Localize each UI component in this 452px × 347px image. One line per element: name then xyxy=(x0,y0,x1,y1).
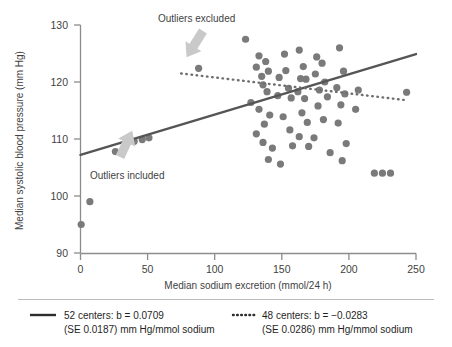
data-point xyxy=(259,81,266,88)
data-point xyxy=(314,102,321,109)
data-point xyxy=(289,142,296,149)
data-point xyxy=(337,101,344,108)
x-tick-label: 200 xyxy=(340,263,358,275)
data-point xyxy=(266,111,273,118)
x-tick-label: 50 xyxy=(142,263,154,275)
data-point xyxy=(333,84,340,91)
x-tick-label: 0 xyxy=(78,263,84,275)
x-axis-tick-labels: 050100150200250 xyxy=(78,263,425,275)
data-point xyxy=(352,106,359,113)
data-point xyxy=(310,134,317,141)
x-tick-label: 150 xyxy=(273,263,291,275)
x-tick-label: 100 xyxy=(206,263,224,275)
scatter-points xyxy=(78,36,411,228)
data-point xyxy=(277,160,284,167)
data-point xyxy=(281,50,288,57)
legend-label-48-centers-line2: (SE 0.0286) mm Hg/mmol sodium xyxy=(262,324,413,335)
y-tick-label: 120 xyxy=(50,76,68,88)
y-axis-ticks xyxy=(74,25,81,253)
data-point xyxy=(255,106,262,113)
data-point xyxy=(301,95,308,102)
data-point xyxy=(340,68,347,75)
data-point xyxy=(320,116,327,123)
data-point xyxy=(355,86,362,93)
annotation-label-outliers-excluded: Outliers excluded xyxy=(158,13,235,24)
chart-canvas: 90100110120130 Median systolic blood pre… xyxy=(0,0,452,347)
legend-label-52-centers-line1: 52 centers: b = 0.0709 xyxy=(64,310,164,321)
y-axis-title: Median systolic blood pressure (mm Hg) xyxy=(14,51,25,230)
data-point xyxy=(387,170,394,177)
y-tick-label: 90 xyxy=(56,247,68,259)
y-tick-label: 100 xyxy=(50,190,68,202)
data-point xyxy=(336,44,343,51)
y-tick-label: 130 xyxy=(50,19,68,31)
data-point xyxy=(263,88,270,95)
data-point xyxy=(305,143,312,150)
data-point xyxy=(298,109,305,116)
y-axis-tick-labels: 90100110120130 xyxy=(50,19,68,259)
legend-entry-48-centers: 48 centers: b = −0.0283 (SE 0.0286) mm H… xyxy=(233,310,413,335)
data-point xyxy=(288,94,295,101)
legend-label-52-centers-line2: (SE 0.0187) mm Hg/mmol sodium xyxy=(64,324,215,335)
data-point xyxy=(253,64,260,71)
data-point xyxy=(195,65,202,72)
legend: 52 centers: b = 0.0709 (SE 0.0187) mm Hg… xyxy=(18,300,434,336)
data-point xyxy=(261,121,268,128)
data-point xyxy=(255,52,262,59)
data-point xyxy=(286,126,293,133)
data-point xyxy=(262,58,269,65)
data-point xyxy=(259,139,266,146)
data-point xyxy=(304,119,311,126)
data-point xyxy=(327,149,334,156)
data-point xyxy=(339,157,346,164)
data-point xyxy=(335,119,342,126)
data-point xyxy=(403,89,410,96)
legend-label-48-centers-line1: 48 centers: b = −0.0283 xyxy=(262,310,368,321)
data-point xyxy=(324,93,331,100)
x-tick-label: 250 xyxy=(407,263,425,275)
data-point xyxy=(379,170,386,177)
x-axis: 050100150200250 Median sodium excretion … xyxy=(78,254,425,292)
data-point xyxy=(313,53,320,60)
data-point xyxy=(265,156,272,163)
data-point xyxy=(296,46,303,53)
x-axis-ticks xyxy=(81,254,417,261)
data-point xyxy=(282,67,289,74)
data-point xyxy=(371,170,378,177)
data-point xyxy=(86,198,93,205)
x-axis-title: Median sodium excretion (mmol/24 h) xyxy=(164,280,331,291)
annotation-outliers-included: Outliers included xyxy=(90,127,164,181)
data-point xyxy=(269,145,276,152)
data-point xyxy=(312,70,319,77)
data-point xyxy=(302,76,309,83)
y-axis: 90100110120130 Median systolic blood pre… xyxy=(14,19,81,259)
data-point xyxy=(258,73,265,80)
data-point xyxy=(343,140,350,147)
data-point xyxy=(300,63,307,70)
legend-entry-52-centers: 52 centers: b = 0.0709 (SE 0.0187) mm Hg… xyxy=(30,310,215,335)
scatter-plot-figure: 90100110120130 Median systolic blood pre… xyxy=(0,0,452,347)
data-point xyxy=(296,133,303,140)
data-point xyxy=(318,60,325,67)
arrow-down-right-icon xyxy=(179,26,211,62)
annotation-label-outliers-included: Outliers included xyxy=(90,170,164,181)
data-point xyxy=(242,36,249,43)
data-point xyxy=(280,113,287,120)
data-point xyxy=(276,74,283,81)
data-point xyxy=(78,221,85,228)
data-point xyxy=(265,68,272,75)
annotation-outliers-excluded: Outliers excluded xyxy=(158,13,235,62)
data-point xyxy=(253,130,260,137)
y-tick-label: 110 xyxy=(51,133,68,145)
